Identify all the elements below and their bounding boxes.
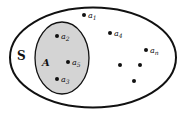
set-a-label: A [41, 57, 50, 68]
unlabeled-point [118, 63, 122, 67]
unlabeled-point [132, 79, 136, 83]
set-s-label: S [17, 49, 26, 63]
unlabeled-point [138, 63, 142, 67]
venn-diagram: S A a2 a5 a3 a1 a4 an [0, 0, 187, 119]
